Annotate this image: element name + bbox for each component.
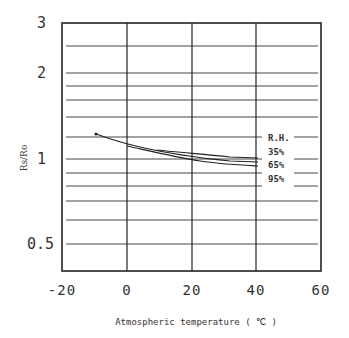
x-tick-40: 40 (247, 282, 266, 298)
legend-title: R.H. (268, 133, 290, 143)
y-axis-label: Rs/Ro (19, 145, 29, 172)
series-start-marker (94, 132, 97, 135)
x-tick-20: 20 (183, 282, 202, 298)
legend-95: 95% (268, 174, 285, 184)
y-tick-3: 3 (37, 14, 46, 32)
series-lines (96, 134, 258, 166)
x-tick-60: 60 (312, 282, 331, 298)
chart: R.H. 35% 65% 95% 3 2 1 0.5 -20 0 20 40 6… (0, 0, 349, 338)
y-tick-1: 1 (37, 150, 46, 168)
series-65 (96, 134, 258, 162)
x-tick-minus20: -20 (48, 282, 76, 298)
legend-65: 65% (268, 160, 285, 170)
series-35 (157, 150, 258, 158)
x-gridlines (127, 23, 256, 271)
x-tick-0: 0 (122, 282, 131, 298)
legend-35: 35% (268, 147, 285, 157)
x-axis-label: Atmospheric temperature ( ℃ ) (115, 317, 277, 327)
y-tick-0.5: 0.5 (27, 235, 54, 253)
y-tick-2: 2 (37, 64, 46, 82)
